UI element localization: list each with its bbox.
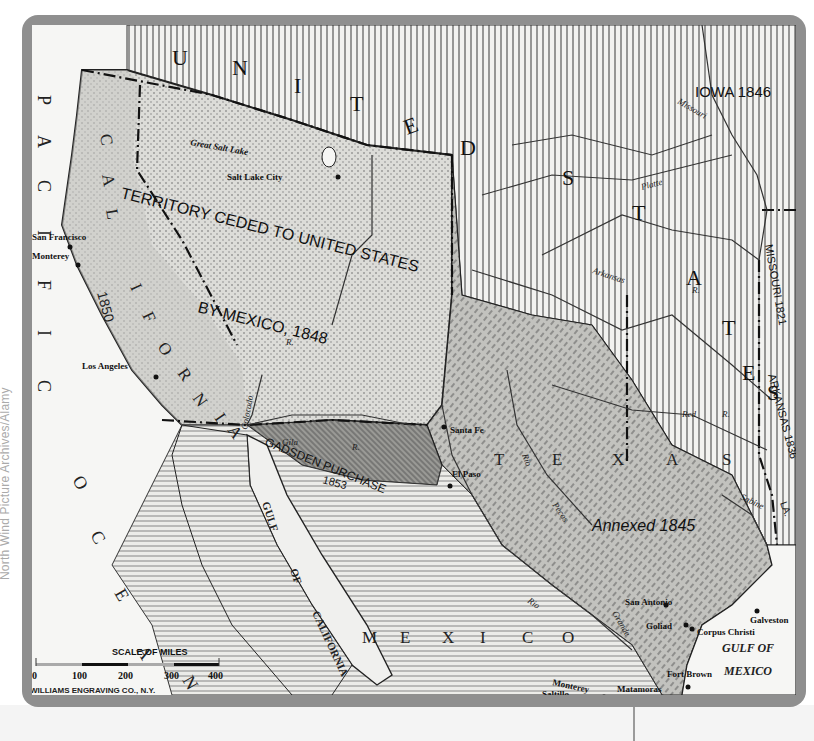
label-matamoras: Matamoras	[617, 684, 662, 694]
us-letter: N	[232, 55, 248, 80]
us-letter: T	[350, 91, 364, 116]
label-saltillo: Saltillo	[542, 689, 570, 695]
us-letter: D	[460, 135, 476, 160]
pacific-letter: I	[34, 330, 54, 336]
label-river-r: R.	[351, 442, 360, 452]
texas-letter: A	[666, 450, 679, 469]
city-dot	[442, 425, 447, 430]
scale-tick: 300	[164, 670, 179, 681]
mexico-letter: C	[522, 628, 533, 647]
city-dot	[684, 623, 689, 628]
city-dot	[68, 245, 73, 250]
city-dot	[154, 375, 159, 380]
label-river-r: R.	[721, 409, 730, 419]
pacific-letter: C	[34, 180, 54, 192]
pacific-letter: C	[34, 380, 54, 392]
strip-divider	[633, 705, 635, 741]
scale-title: SCALE OF MILES	[112, 647, 188, 657]
label-texas-annexed: Annexed 1845	[591, 517, 695, 534]
label-san-francisco: San Francisco	[32, 232, 87, 242]
label-gulf-of-mexico-1: GULF OF	[722, 641, 774, 655]
us-letter: S	[562, 165, 574, 190]
historical-map: U N I T E D S T A T E S IOWA 1846 MISSOU…	[32, 25, 796, 695]
great-salt-lake	[322, 147, 336, 167]
label-salt-lake-city: Salt Lake City	[227, 172, 283, 182]
mexico-letter: O	[562, 628, 574, 647]
pacific-letter: P	[34, 95, 54, 105]
label-santa-fe: Santa Fe	[450, 425, 484, 435]
label-el-paso: El Paso	[452, 469, 481, 479]
label-monterey-ca: Monterey	[32, 251, 70, 261]
scale-tick: 200	[118, 670, 133, 681]
us-letter: T	[722, 315, 736, 340]
label-corpus-christi: Corpus Christi	[697, 627, 755, 637]
scale-tick: 0	[32, 670, 37, 681]
city-dot	[76, 263, 81, 268]
us-letter: T	[632, 200, 646, 225]
label-river-r: R.	[285, 337, 294, 347]
mexico-letter: E	[400, 628, 410, 647]
label-river-r: R.	[691, 285, 700, 295]
city-dot	[686, 685, 691, 690]
city-dot	[336, 175, 341, 180]
label-river-red: Red	[681, 409, 696, 419]
city-dot	[690, 627, 695, 632]
label-river-gila: Gila	[282, 437, 299, 447]
mexico-letter: I	[480, 628, 486, 647]
pacific-letter: A	[34, 135, 54, 148]
photo-credit: North Wind Picture Archives/Alamy	[0, 387, 12, 580]
engraver-credit: WILLIAMS ENGRAVING CO., N.Y.	[32, 686, 155, 695]
label-iowa: IOWA 1846	[695, 83, 771, 100]
bottom-strip	[0, 705, 814, 741]
us-letter: E	[742, 360, 755, 385]
label-galveston: Galveston	[750, 615, 789, 625]
us-letter: U	[172, 45, 188, 70]
pacific-letter: F	[34, 280, 54, 290]
texas-letter: S	[722, 450, 731, 469]
city-dot	[755, 609, 760, 614]
mexico-letter: X	[442, 628, 454, 647]
scale-tick: 100	[72, 670, 87, 681]
label-gulf-of-mexico-2: MEXICO	[723, 664, 772, 678]
texas-letter: E	[552, 450, 562, 469]
texas-letter: T	[494, 450, 505, 469]
scale-tick: 400	[208, 670, 223, 681]
city-dot	[664, 603, 669, 608]
label-goliad: Goliad	[646, 621, 672, 631]
label-los-angeles: Los Angeles	[82, 361, 128, 371]
label-fort-brown: Fort Brown	[667, 669, 712, 679]
city-dot	[448, 484, 453, 489]
mexico-letter: M	[362, 628, 377, 647]
texas-letter: X	[612, 450, 624, 469]
us-letter: I	[294, 73, 301, 98]
